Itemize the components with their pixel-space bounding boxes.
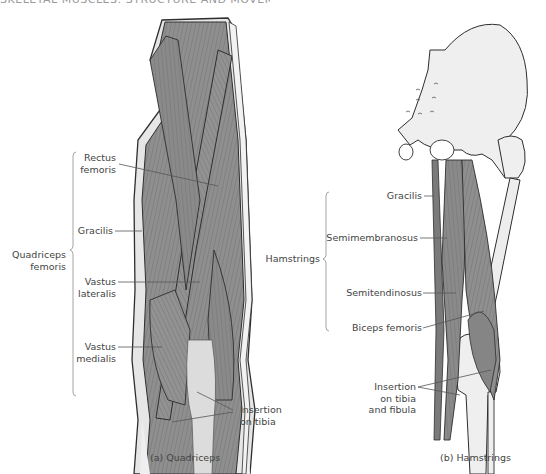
label-biceps-femoris: Biceps femoris <box>330 322 422 334</box>
label-line: on tibia <box>356 393 416 405</box>
label-semitendinosus: Semitendinosus <box>330 287 422 299</box>
label-line: femoris <box>0 261 66 273</box>
label-insertion-tibia: Insertion on tibia <box>240 404 300 427</box>
label-semimembranosus: Semimembranosus <box>320 232 418 244</box>
label-gracilis-b: Gracilis <box>360 190 422 202</box>
hamstrings-figure <box>398 24 528 474</box>
label-line: Quadriceps <box>0 249 66 261</box>
caption-quadriceps: (a) Quadriceps <box>150 452 220 463</box>
label-insertion-tibia-fibula: Insertion on tibia and fibula <box>356 381 416 416</box>
label-hamstrings: Hamstrings <box>258 253 320 265</box>
label-line: Insertion <box>240 404 300 416</box>
label-line: Vastus <box>60 276 116 288</box>
label-quadriceps-femoris: Quadriceps femoris <box>0 249 66 272</box>
label-line: and fibula <box>356 404 416 416</box>
caption-hamstrings: (b) Hamstrings <box>440 452 511 463</box>
label-gracilis-a: Gracilis <box>60 225 113 237</box>
label-vastus-medialis: Vastus medialis <box>60 341 116 364</box>
label-line: on tibia <box>240 416 300 428</box>
label-line: lateralis <box>60 288 116 300</box>
label-line: Insertion <box>356 381 416 393</box>
quadriceps-figure <box>132 18 255 474</box>
label-vastus-lateralis: Vastus lateralis <box>60 276 116 299</box>
label-line: femoris <box>60 164 116 176</box>
label-rectus-femoris: Rectus femoris <box>60 152 116 175</box>
anatomy-illustration <box>0 0 546 474</box>
label-line: Rectus <box>60 152 116 164</box>
label-line: medialis <box>60 353 116 365</box>
label-line: Vastus <box>60 341 116 353</box>
